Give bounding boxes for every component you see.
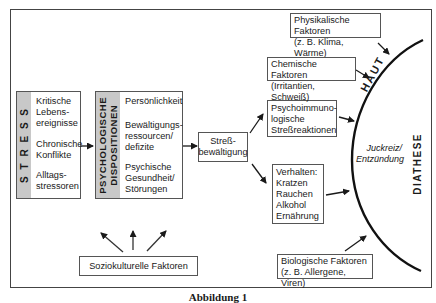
coping-box: Streß- bewältigung [198, 132, 248, 162]
dispositions-box: PSYCHOLOGISCHE DISPOSITIONEN Persönlichk… [95, 91, 183, 199]
diathesis-label: DIATHESE [410, 130, 424, 198]
figure-caption: Abbildung 1 [0, 291, 436, 303]
chemical-factors-box: Chemische Faktoren (Irritantien, Schweiß… [267, 57, 356, 81]
stress-item-critical-life-events: Kritische Lebens- ereignisse [36, 96, 78, 129]
dispositions-band-label: PSYCHOLOGISCHE DISPOSITIONEN [97, 97, 119, 194]
psychoimmuno-box: Psychoimmuno- logische Streßreaktionen [267, 100, 337, 137]
arrow-biological-to-skin [345, 236, 366, 251]
behavior-box: Verhalten: Kratzen Rauchen Alkohol Ernäh… [272, 164, 324, 224]
dispositions-band: PSYCHOLOGISCHE DISPOSITIONEN [96, 92, 120, 198]
stress-band: S T R E S S [17, 92, 31, 198]
physical-factors-box: Physikalische Faktoren (z. B. Klima, Wär… [290, 13, 381, 38]
arrow-physical-to-skin [378, 43, 389, 54]
symptom-label: Juckreiz/ Entzündung [356, 143, 402, 165]
sociocultural-factors-box: Soziokulturelle Faktoren [79, 256, 198, 276]
stress-box: S T R E S S Kritische Lebens- ereignisse… [16, 91, 81, 199]
disposition-item-mental-health: Psychische Gesundheit/ Störungen [125, 162, 175, 195]
diathesis-text: DIATHESE [412, 133, 423, 195]
stress-item-daily-stressors: Alltags- stressoren [36, 170, 79, 192]
arrow-sociocultural-right [147, 231, 166, 251]
stress-item-chronic-conflicts: Chronische Konflikte [36, 139, 82, 161]
stress-band-label: S T R E S S [19, 107, 30, 183]
arrow-coping-to-psychoimmuno [250, 114, 263, 133]
disposition-item-coping-resources: Bewältigungs- ressourcen/ defizite [125, 120, 183, 153]
arrow-behavior-to-skin [326, 191, 349, 195]
arrow-psychoimmuno-to-skin [339, 117, 354, 121]
arrow-coping-to-behavior [252, 164, 266, 183]
biological-factors-box: Biologische Faktoren (z. B. Allergene, V… [277, 254, 373, 279]
arrow-sociocultural-left [101, 233, 123, 252]
disposition-item-personality: Persönlichkeit [125, 96, 182, 107]
